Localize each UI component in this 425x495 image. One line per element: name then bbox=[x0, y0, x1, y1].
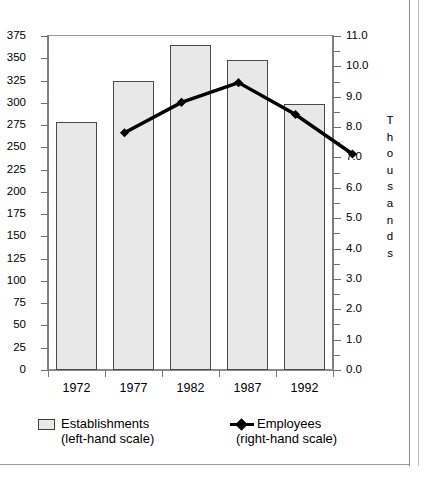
right-axis-title-char: n bbox=[382, 212, 398, 229]
right-axis-minor-tick bbox=[334, 51, 340, 52]
right-axis-tick-label: 8.0 bbox=[346, 121, 386, 132]
scan-edge-line-outer bbox=[418, 0, 419, 466]
right-axis-tick-label: 4.0 bbox=[346, 243, 386, 254]
bar-1977 bbox=[113, 81, 154, 370]
right-axis-tick bbox=[332, 340, 341, 341]
right-axis-tick-label: 11.0 bbox=[346, 30, 386, 41]
right-axis-minor-tick bbox=[334, 324, 340, 325]
legend-label-establishments: Establishments bbox=[61, 416, 149, 431]
left-axis-tick-label: 25 bbox=[0, 342, 26, 353]
right-axis-title-char: a bbox=[382, 195, 398, 212]
right-axis-minor-tick bbox=[334, 355, 340, 356]
x-axis-tick bbox=[219, 370, 220, 377]
right-axis-title-char: d bbox=[382, 228, 398, 245]
right-axis-title: Thousands bbox=[382, 112, 398, 261]
right-axis-tick-label: 10.0 bbox=[346, 60, 386, 71]
right-axis-tick-label: 9.0 bbox=[346, 91, 386, 102]
legend-square-swatch-icon bbox=[38, 419, 55, 430]
right-axis-tick-label: 1.0 bbox=[346, 334, 386, 345]
right-axis-tick bbox=[332, 157, 341, 158]
right-axis-minor-tick bbox=[334, 112, 340, 113]
right-axis-tick bbox=[332, 188, 341, 189]
right-axis-tick-label: 3.0 bbox=[346, 273, 386, 284]
right-axis-minor-tick bbox=[334, 233, 340, 234]
right-axis-title-char: o bbox=[382, 145, 398, 162]
x-axis-tick bbox=[105, 370, 106, 377]
chart-legend: Establishments (left-hand scale) Employe… bbox=[30, 416, 390, 460]
right-axis-tick bbox=[332, 127, 341, 128]
left-axis-tick-label: 150 bbox=[0, 230, 26, 241]
right-axis-tick-label: 2.0 bbox=[346, 303, 386, 314]
left-axis-tick-label: 75 bbox=[0, 297, 26, 308]
x-axis-tick bbox=[162, 370, 163, 377]
right-axis-minor-tick bbox=[334, 294, 340, 295]
right-axis-tick-label: 0.0 bbox=[346, 364, 386, 375]
right-axis-minor-tick bbox=[334, 264, 340, 265]
right-axis-title-char: h bbox=[382, 129, 398, 146]
chart-figure: 3753503253002752502252001751501251007550… bbox=[0, 0, 409, 466]
right-axis-tick-label: 5.0 bbox=[346, 212, 386, 223]
right-axis-tick-label: 7.0 bbox=[346, 151, 386, 162]
right-axis-tick-label: 6.0 bbox=[346, 182, 386, 193]
right-axis-tick bbox=[332, 279, 341, 280]
left-axis-tick-label: 125 bbox=[0, 253, 26, 264]
right-axis-tick bbox=[332, 36, 341, 37]
right-axis-tick bbox=[332, 97, 341, 98]
right-axis-title-char: s bbox=[382, 178, 398, 195]
left-axis-tick-label: 350 bbox=[0, 52, 26, 63]
legend-sublabel-establishments: (left-hand scale) bbox=[61, 431, 154, 446]
right-axis-tick bbox=[332, 66, 341, 67]
left-axis-tick-label: 100 bbox=[0, 275, 26, 286]
right-axis-tick bbox=[332, 249, 341, 250]
x-axis-label-1992: 1992 bbox=[270, 381, 340, 395]
left-axis-tick-label: 375 bbox=[0, 30, 26, 41]
right-axis-tick bbox=[332, 309, 341, 310]
legend-item-establishments: Establishments (left-hand scale) bbox=[38, 416, 154, 446]
scan-edge-line bbox=[409, 0, 410, 466]
scan-edge-bottom-line bbox=[0, 464, 409, 465]
legend-sublabel-employees: (right-hand scale) bbox=[236, 431, 337, 446]
right-axis-minor-tick bbox=[334, 203, 340, 204]
left-axis-tick-label: 200 bbox=[0, 186, 26, 197]
x-axis-tick bbox=[333, 370, 334, 377]
left-axis-tick-label: 0 bbox=[0, 364, 26, 375]
right-axis-title-char: u bbox=[382, 162, 398, 179]
right-axis-title-char: T bbox=[382, 112, 398, 129]
x-axis-tick bbox=[48, 370, 49, 377]
bar-1992 bbox=[284, 104, 325, 370]
right-axis-minor-tick bbox=[334, 173, 340, 174]
legend-line-marker-icon bbox=[230, 418, 254, 431]
right-axis-minor-tick bbox=[334, 82, 340, 83]
x-axis-tick bbox=[276, 370, 277, 377]
right-axis-minor-tick bbox=[334, 142, 340, 143]
left-axis-tick-label: 300 bbox=[0, 97, 26, 108]
left-axis-tick-label: 250 bbox=[0, 141, 26, 152]
bar-1972 bbox=[56, 122, 97, 370]
legend-label-employees: Employees bbox=[257, 416, 321, 431]
left-axis-tick-label: 175 bbox=[0, 208, 26, 219]
left-axis-tick-label: 225 bbox=[0, 164, 26, 175]
right-axis-title-char: s bbox=[382, 245, 398, 262]
right-axis-tick bbox=[332, 218, 341, 219]
bar-1987 bbox=[227, 60, 268, 370]
left-axis-tick-label: 325 bbox=[0, 75, 26, 86]
legend-item-employees: Employees (right-hand scale) bbox=[230, 416, 337, 446]
left-axis-tick-label: 50 bbox=[0, 319, 26, 330]
bar-1982 bbox=[170, 45, 211, 370]
plot-area bbox=[48, 36, 333, 370]
left-axis-tick-label: 275 bbox=[0, 119, 26, 130]
